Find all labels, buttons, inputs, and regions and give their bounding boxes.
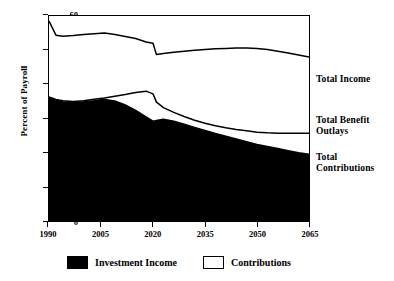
legend-label-investment-income: Investment Income (95, 257, 177, 268)
legend-item-contributions: Contributions (203, 256, 291, 269)
plot-area (48, 15, 310, 222)
x-tick-label: 2020 (133, 229, 173, 239)
x-tick-mark (309, 222, 310, 227)
chart-container: Percent of Payroll 0102030405060 1990200… (0, 0, 394, 281)
x-tick-mark (205, 222, 206, 227)
annotation-total-contributions: Total Contributions (316, 152, 394, 174)
plot-svg (49, 16, 309, 221)
legend-item-investment-income: Investment Income (67, 256, 177, 269)
chart-legend: Investment Income Contributions (48, 252, 310, 272)
annotation-total-contributions-line2: Contributions (316, 163, 394, 174)
x-tick-label: 2065 (290, 229, 330, 239)
annotation-total-benefit-outlays-line2: Outlays (316, 126, 394, 137)
x-tick-mark (152, 222, 153, 227)
annotation-total-income: Total Income (316, 74, 394, 85)
x-tick-label: 2050 (238, 229, 278, 239)
x-tick-label: 2005 (80, 229, 120, 239)
line-total-income (49, 21, 309, 57)
x-tick-mark (257, 222, 258, 227)
x-tick-label: 1990 (28, 229, 68, 239)
annotation-total-benefit-outlays-line1: Total Benefit (316, 115, 394, 126)
annotation-total-benefit-outlays: Total Benefit Outlays (316, 115, 394, 137)
x-tick-mark (100, 222, 101, 227)
x-tick-mark (47, 222, 48, 227)
legend-swatch-contributions (203, 256, 224, 269)
annotation-total-contributions-line1: Total (316, 152, 394, 163)
x-tick-label: 2035 (185, 229, 225, 239)
legend-label-contributions: Contributions (231, 257, 291, 268)
legend-swatch-investment-income (67, 256, 88, 269)
